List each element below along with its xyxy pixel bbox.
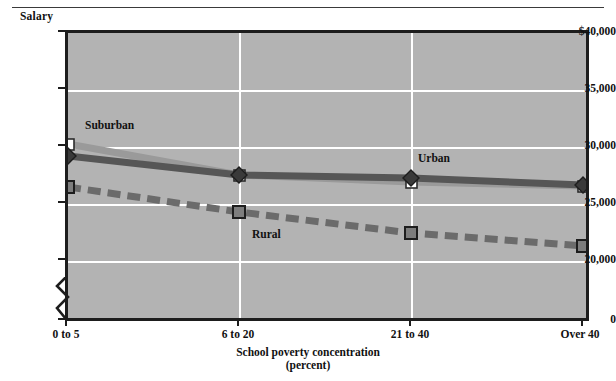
y-axis-label-20000: 20,000 [562, 253, 616, 265]
x-axis-title-sub: (percent) [0, 359, 616, 372]
x-axis-label-21-to-40: 21 to 40 [391, 328, 429, 340]
marker-urban-3 [575, 177, 586, 193]
y-tick-40000 [58, 30, 66, 32]
marker-rural-0 [68, 181, 74, 193]
series-plot-svg [68, 33, 586, 321]
marker-rural-1 [233, 206, 245, 218]
series-label-suburban: Suburban [85, 119, 134, 131]
rural-line [68, 187, 583, 246]
x-tick-over-40 [581, 319, 583, 326]
series-rural [68, 187, 583, 246]
y-tick-35000 [58, 87, 66, 89]
x-axis-label-0-to-5: 0 to 5 [53, 328, 80, 340]
marker-rural-3 [577, 240, 586, 252]
plot-area [65, 30, 589, 321]
y-axis-label-40000: $40,000 [562, 25, 616, 37]
marker-rural-2 [405, 227, 417, 239]
x-tick-21-to-40 [409, 319, 411, 326]
y-tick-25000 [58, 201, 66, 203]
y-axis-label-25000: 25,000 [562, 196, 616, 208]
y-axis-break-icon [52, 277, 78, 319]
plot-inner [68, 33, 586, 321]
x-axis-title-main: School poverty concentration [236, 346, 380, 358]
y-tick-30000 [58, 144, 66, 146]
series-label-rural: Rural [252, 228, 281, 240]
x-axis-line [65, 318, 586, 321]
chart-figure: Salary [0, 0, 616, 381]
x-axis-label-6-to-20: 6 to 20 [222, 328, 255, 340]
x-axis-title: School poverty concentration (percent) [0, 346, 616, 372]
y-axis-title: Salary [20, 10, 53, 22]
x-tick-0-to-5 [65, 319, 67, 326]
series-label-urban: Urban [418, 152, 450, 164]
y-axis-line [65, 30, 68, 318]
x-tick-6-to-20 [237, 319, 239, 326]
top-divider-rule [12, 7, 604, 8]
y-axis-label-35000: 35,000 [562, 82, 616, 94]
y-axis-label-0: 0 [562, 313, 616, 325]
x-axis-label-over-40: Over 40 [560, 328, 599, 340]
y-axis-label-30000: 30,000 [562, 139, 616, 151]
y-tick-20000 [58, 258, 66, 260]
